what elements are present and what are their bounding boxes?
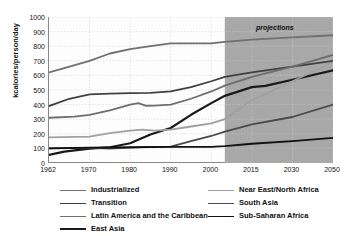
- x-axis-tick-label: 2015: [236, 166, 266, 173]
- chart-figure: kcalories/person/day 0100200300400500600…: [0, 0, 355, 236]
- legend-item-label: Sub-Saharan Africa: [239, 211, 308, 221]
- y-axis-tick-label: 100: [19, 145, 45, 152]
- x-axis-tick-label: 1962: [33, 166, 63, 173]
- legend-color-swatch: [60, 228, 86, 230]
- y-axis-tick-label: 600: [19, 72, 45, 79]
- legend-item-label: East Asia: [91, 224, 125, 234]
- legend-item[interactable]: Transition: [60, 198, 127, 208]
- x-axis-tick-label: 1970: [74, 166, 104, 173]
- y-axis-tick-label: 900: [19, 29, 45, 36]
- y-axis-tick-label: 400: [19, 102, 45, 109]
- legend-item-label: Industrialized: [91, 185, 139, 195]
- legend-color-swatch: [60, 190, 86, 191]
- projections-annotation: projections: [256, 24, 294, 31]
- x-axis-tick-label: 1980: [114, 166, 144, 173]
- legend-color-swatch: [60, 216, 86, 217]
- legend-color-swatch: [208, 216, 234, 217]
- x-axis-tick-label: 1990: [155, 166, 185, 173]
- y-axis-tick-label: 1000: [19, 14, 45, 21]
- legend-item-label: Latin America and the Caribbean: [91, 211, 208, 221]
- y-axis-tick-label: 500: [19, 87, 45, 94]
- legend-item[interactable]: South Asia: [208, 198, 278, 208]
- legend-color-swatch: [60, 203, 86, 204]
- legend-color-swatch: [208, 190, 234, 191]
- x-axis-tick-label: 2050: [317, 166, 347, 173]
- legend-item[interactable]: Latin America and the Caribbean: [60, 211, 208, 221]
- y-axis-tick-label: 200: [19, 131, 45, 138]
- x-axis-tick-label: 2030: [276, 166, 306, 173]
- plot-area: [48, 17, 332, 163]
- legend-item-label: Near East/North Africa: [239, 185, 319, 195]
- legend-item[interactable]: Industrialized: [60, 185, 139, 195]
- y-axis-tick-label: 300: [19, 116, 45, 123]
- chart-legend: IndustrializedTransitionLatin America an…: [60, 185, 350, 233]
- legend-item-label: Transition: [91, 198, 127, 208]
- legend-item[interactable]: Sub-Saharan Africa: [208, 211, 308, 221]
- legend-item-label: South Asia: [239, 198, 278, 208]
- chart-svg: [49, 17, 333, 163]
- x-axis-tick-label: 2000: [195, 166, 225, 173]
- y-axis-tick-label: 700: [19, 58, 45, 65]
- legend-color-swatch: [208, 203, 234, 204]
- y-axis-tick-label: 800: [19, 43, 45, 50]
- legend-item[interactable]: Near East/North Africa: [208, 185, 319, 195]
- legend-item[interactable]: East Asia: [60, 224, 125, 234]
